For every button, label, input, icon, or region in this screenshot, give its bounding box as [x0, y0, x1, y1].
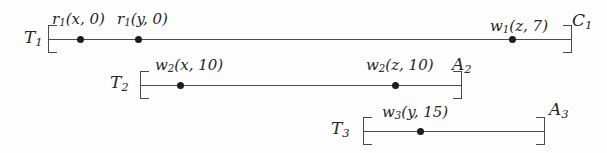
operation-label-w1z-args: (z, 7) — [509, 17, 548, 35]
transaction-label-t1: T1 — [24, 29, 43, 46]
commit-label-c1-base: C — [572, 10, 585, 30]
operation-dot-r1y — [135, 36, 142, 43]
transaction-label-t1-base: T — [24, 27, 35, 47]
transaction-label-t3-sub: 3 — [342, 126, 349, 140]
timeline-start-bracket-t2 — [140, 71, 149, 99]
operation-label-r1x-args: (x, 0) — [66, 10, 105, 28]
operation-label-w2x-args: (x, 10) — [174, 56, 223, 74]
transaction-label-t3-base: T — [331, 118, 342, 138]
operation-label-w2z: w2(z, 10) — [366, 58, 434, 73]
timeline-start-bracket-t3 — [363, 117, 372, 145]
timeline-end-bracket-t1 — [563, 25, 572, 53]
abort-label-a2: A2 — [452, 56, 472, 73]
operation-label-w1z: w1(z, 7) — [490, 19, 548, 34]
operation-label-w2x-base: w — [155, 56, 168, 74]
abort-label-a2-sub: 2 — [464, 62, 471, 76]
operation-label-w2x: w2(x, 10) — [155, 58, 223, 73]
transaction-timeline-figure: T1 r1(x, 0) r1(y, 0) w1(z, 7) C1 T2 — [0, 0, 607, 153]
timeline-end-bracket-t3 — [536, 117, 545, 145]
operation-label-w3y: w3(y, 15) — [382, 105, 448, 120]
operation-label-w3y-args: (y, 15) — [401, 103, 448, 121]
operation-label-r1y-args: (y, 0) — [131, 10, 168, 28]
timeline-axis-t1 — [48, 39, 572, 40]
operation-dot-r1x — [77, 36, 84, 43]
timeline-axis-t2 — [140, 85, 462, 86]
abort-label-a3: A3 — [549, 101, 569, 118]
operation-dot-w2x — [177, 82, 184, 89]
transaction-label-t2-base: T — [110, 72, 121, 92]
abort-label-a2-base: A — [452, 54, 464, 74]
commit-label-c1-sub: 1 — [585, 18, 592, 32]
operation-label-w2z-args: (z, 10) — [385, 56, 433, 74]
transaction-label-t3: T3 — [331, 120, 350, 137]
transaction-label-t2-sub: 2 — [121, 80, 128, 94]
operation-dot-w2z — [392, 82, 399, 89]
operation-label-w3y-base: w — [382, 103, 395, 121]
commit-label-c1: C1 — [572, 12, 592, 29]
timeline-start-bracket-t1 — [48, 25, 57, 53]
operation-label-w2z-base: w — [366, 56, 379, 74]
operation-label-r1y: r1(y, 0) — [117, 12, 168, 27]
abort-label-a3-base: A — [549, 99, 561, 119]
timeline-axis-t3 — [363, 131, 545, 132]
timeline-end-bracket-t2 — [453, 71, 462, 99]
operation-label-w1z-base: w — [490, 17, 503, 35]
transaction-label-t1-sub: 1 — [35, 35, 42, 49]
transaction-label-t2: T2 — [110, 74, 129, 91]
abort-label-a3-sub: 3 — [561, 107, 568, 121]
operation-label-r1x: r1(x, 0) — [52, 12, 105, 27]
operation-dot-w1z — [509, 36, 516, 43]
operation-dot-w3y — [417, 128, 424, 135]
